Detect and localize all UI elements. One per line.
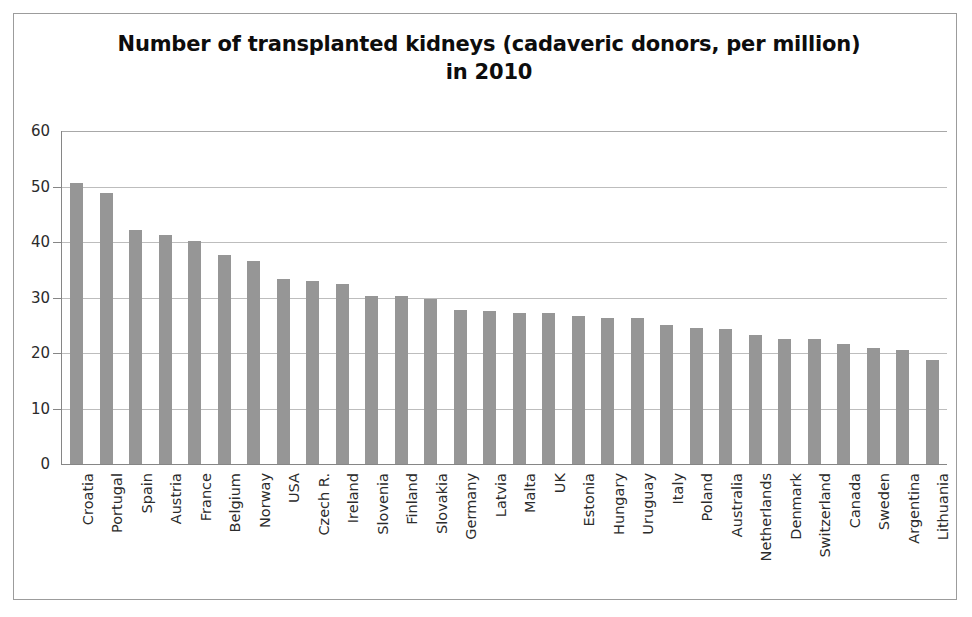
x-axis-tick-group: Latvia [483, 473, 496, 593]
x-axis-label: Uruguay [642, 473, 655, 535]
bar [159, 235, 172, 464]
y-tick-40 [53, 242, 61, 243]
x-axis-tick-group: Italy [660, 473, 673, 593]
x-axis-tick-group: Hungary [601, 473, 614, 593]
x-axis-tick-group: Czech R. [306, 473, 319, 593]
y-axis-label: 20 [31, 344, 50, 362]
x-axis-tick-group: Ireland [336, 473, 349, 593]
x-axis-label: Hungary [613, 473, 626, 535]
x-axis-label: Argentina [908, 473, 921, 544]
bar [690, 328, 703, 464]
bar [808, 339, 821, 464]
gridline-50 [62, 187, 947, 188]
x-axis-tick-group: Malta [513, 473, 526, 593]
gridline-60 [62, 131, 947, 132]
x-axis-tick-group: Sweden [867, 473, 880, 593]
x-axis-label: Finland [406, 473, 419, 525]
bar [365, 296, 378, 464]
bar [601, 318, 614, 464]
x-axis-tick-group: Denmark [778, 473, 791, 593]
x-axis-label: Belgium [229, 473, 242, 532]
x-axis-tick-group: Slovakia [424, 473, 437, 593]
y-axis-label: 10 [31, 400, 50, 418]
bar [277, 279, 290, 464]
bar [542, 313, 555, 464]
x-axis-label: USA [288, 473, 301, 503]
x-axis-label: Croatia [82, 473, 95, 525]
x-axis-tick-group: Spain [129, 473, 142, 593]
x-axis-label: Norway [259, 473, 272, 528]
x-axis-label: Australia [731, 473, 744, 537]
y-tick-30 [53, 298, 61, 299]
x-axis-label: Malta [524, 473, 537, 513]
x-axis-tick-group: UK [542, 473, 555, 593]
x-axis-tick-group: Germany [454, 473, 467, 593]
x-axis-tick-group: USA [277, 473, 290, 593]
x-axis-label: Lithuania [937, 473, 950, 540]
bar [424, 299, 437, 464]
bar [454, 310, 467, 464]
y-axis-label: 30 [31, 289, 50, 307]
x-axis-tick-group: Slovenia [365, 473, 378, 593]
bar [483, 311, 496, 464]
bar [837, 344, 850, 464]
x-axis-label: Latvia [495, 473, 508, 517]
x-axis-label: Sweden [878, 473, 891, 530]
bar [778, 339, 791, 464]
x-axis-tick-group: Uruguay [631, 473, 644, 593]
x-axis-label: France [200, 473, 213, 521]
bar [70, 183, 83, 464]
bar [660, 325, 673, 464]
x-axis-label: Czech R. [318, 473, 331, 536]
y-axis-label: 60 [31, 122, 50, 140]
x-axis-label: Estonia [583, 473, 596, 526]
x-axis-label: Netherlands [760, 473, 773, 561]
x-axis-label: Ireland [347, 473, 360, 523]
bar [749, 335, 762, 464]
bar [395, 296, 408, 464]
x-axis-tick-group: Finland [395, 473, 408, 593]
x-axis-label: Portugal [111, 473, 124, 533]
x-axis-label: Slovakia [436, 473, 449, 534]
x-axis-tick-group: Croatia [70, 473, 83, 593]
y-axis-label: 40 [31, 233, 50, 251]
x-axis-tick-group: Netherlands [749, 473, 762, 593]
y-tick-20 [53, 353, 61, 354]
x-axis-tick-group: Estonia [572, 473, 585, 593]
bar [572, 316, 585, 464]
bar [926, 360, 939, 464]
x-axis-label: Switzerland [819, 473, 832, 558]
plot-area: 0102030405060 CroatiaPortugalSpainAustri… [61, 131, 947, 465]
bar [188, 241, 201, 464]
x-axis-tick-group: Norway [247, 473, 260, 593]
chart-frame: Number of transplanted kidneys (cadaveri… [13, 13, 957, 600]
bar [100, 193, 113, 464]
x-axis-tick-group: Canada [837, 473, 850, 593]
x-axis-label: UK [554, 473, 567, 493]
x-axis-tick-group: Argentina [896, 473, 909, 593]
chart-title: Number of transplanted kidneys (cadaveri… [104, 30, 874, 86]
x-axis-tick-group: France [188, 473, 201, 593]
bar [218, 255, 231, 464]
y-tick-50 [53, 187, 61, 188]
x-axis-tick-group: Australia [719, 473, 732, 593]
x-axis-label: Spain [141, 473, 154, 514]
bar [247, 261, 260, 464]
x-axis-label: Canada [849, 473, 862, 528]
y-axis-label: 0 [40, 455, 50, 473]
x-axis-tick-group: Lithuania [926, 473, 939, 593]
bar [513, 313, 526, 464]
x-axis-tick-group: Switzerland [808, 473, 821, 593]
x-axis-tick-group: Belgium [218, 473, 231, 593]
x-axis-label: Austria [170, 473, 183, 524]
x-axis-label: Poland [701, 473, 714, 521]
bar [867, 348, 880, 464]
x-axis-tick-group: Portugal [100, 473, 113, 593]
y-tick-10 [53, 409, 61, 410]
bar [129, 230, 142, 464]
bar [896, 350, 909, 464]
bar [306, 281, 319, 464]
bar [631, 318, 644, 464]
x-axis-label: Italy [672, 473, 685, 504]
x-axis-tick-group: Austria [159, 473, 172, 593]
